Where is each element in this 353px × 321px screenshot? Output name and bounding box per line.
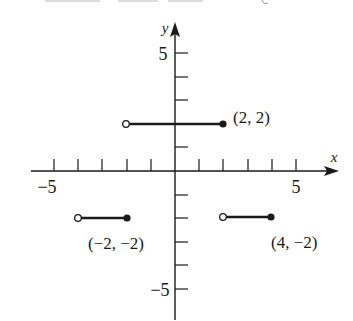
y-tick-label-max: 5 — [159, 44, 168, 64]
closed-endpoint-icon — [267, 213, 274, 220]
point-label-4-neg2: (4, −2) — [271, 233, 317, 252]
plot-canvas: x −5 5 y 5 −5 — [0, 0, 353, 321]
clipped-caption-remnant — [45, 0, 268, 4]
open-endpoint-icon — [75, 215, 82, 222]
step-function-graph: x −5 5 y 5 −5 — [0, 0, 353, 321]
open-endpoint-icon — [220, 214, 227, 221]
y-tick-label-min: −5 — [150, 280, 169, 300]
x-axis-label: x — [330, 149, 338, 165]
closed-endpoint-icon — [219, 120, 226, 127]
x-axis: x −5 5 — [31, 149, 339, 197]
segment-1 — [75, 214, 131, 221]
x-tick-label-max: 5 — [292, 177, 301, 197]
point-label-neg2-neg2: (−2, −2) — [88, 234, 144, 253]
closed-endpoint-icon — [123, 214, 130, 221]
y-axis: y 5 −5 — [150, 20, 188, 320]
segment-3 — [220, 213, 275, 220]
y-axis-label: y — [160, 20, 169, 36]
x-tick-label-min: −5 — [37, 177, 56, 197]
open-endpoint-icon — [123, 121, 130, 128]
point-label-2-2: (2, 2) — [233, 108, 270, 127]
